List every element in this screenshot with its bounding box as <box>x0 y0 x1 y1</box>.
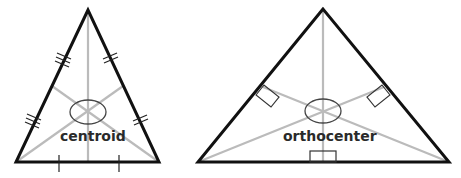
geometry-figure: centroid orthocenter <box>0 0 461 178</box>
centroid-diagram: centroid <box>16 10 159 172</box>
left-side-triple-ticks <box>25 53 71 128</box>
orthocenter-label: orthocenter <box>283 128 377 144</box>
orthocenter-diagram: orthocenter <box>198 9 449 162</box>
centroid-label: centroid <box>60 128 126 144</box>
